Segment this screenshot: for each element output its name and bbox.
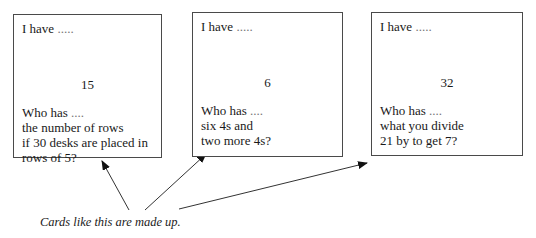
card-1: I have ..... 15 Who has .... the number … bbox=[13, 14, 162, 158]
have-label: I have ..... bbox=[380, 19, 432, 35]
arrow-to-card-1 bbox=[102, 161, 129, 210]
card-number: 32 bbox=[372, 75, 522, 91]
card-number: 15 bbox=[14, 77, 161, 93]
who-has-question: Who has .... six 4s and two more 4s? bbox=[201, 103, 271, 148]
card-3: I have ..... 32 Who has .... what you di… bbox=[371, 12, 523, 156]
have-label: I have ..... bbox=[201, 19, 253, 35]
have-label: I have ..... bbox=[22, 21, 74, 37]
card-2: I have ..... 6 Who has .... six 4s and t… bbox=[192, 12, 343, 157]
who-has-question: Who has .... the number of rows if 30 de… bbox=[22, 105, 148, 165]
arrow-to-card-2 bbox=[145, 154, 206, 210]
caption: Cards like this are made up. bbox=[40, 215, 181, 230]
arrow-to-card-3 bbox=[179, 163, 367, 209]
card-number: 6 bbox=[193, 75, 342, 91]
who-has-question: Who has .... what you divide 21 by to ge… bbox=[380, 103, 464, 148]
